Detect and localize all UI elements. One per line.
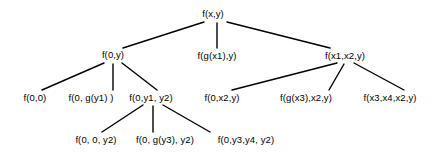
- tree-edge: [227, 22, 330, 48]
- tree-edge: [354, 63, 404, 90]
- tree-node: f(x1,x2,y): [325, 51, 365, 61]
- tree-edge: [329, 64, 344, 90]
- tree-node: f(0,y): [102, 50, 124, 60]
- tree-edge: [122, 63, 157, 90]
- tree-node: f(0, g(y1) ): [68, 93, 113, 103]
- tree-edge: [102, 105, 143, 132]
- tree-node: f(0,y3,y4, y2): [218, 135, 274, 145]
- tree-edge: [123, 22, 204, 48]
- tree-node: f(0, 0, y2): [75, 135, 116, 145]
- tree-edge: [232, 63, 337, 90]
- tree-node: f(0,0): [24, 93, 47, 103]
- tree-node: f(0, g(y3), y2): [136, 135, 194, 145]
- tree-node: f(x3,x4,x2,y): [363, 93, 416, 103]
- tree-node: f(g(x3),x2,y): [280, 93, 332, 103]
- tree-node: f(g(x1),y): [198, 51, 237, 61]
- tree-node: f(x,y): [202, 9, 224, 19]
- diagram-canvas: f(x,y)f(0,y)f(g(x1),y)f(x1,x2,y)f(0,0)f(…: [0, 0, 441, 159]
- tree-edge: [163, 105, 210, 132]
- tree-node: f(0,y1, y2): [129, 93, 172, 103]
- tree-edge: [42, 63, 104, 90]
- tree-node: f(0,x2,y): [204, 93, 239, 103]
